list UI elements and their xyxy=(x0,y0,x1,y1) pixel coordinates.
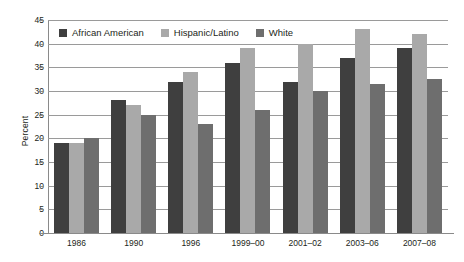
bar-group xyxy=(162,20,219,233)
x-axis-line xyxy=(40,233,454,234)
bar-group xyxy=(48,20,105,233)
bar xyxy=(427,79,442,233)
y-axis-tick-labels: 051015202530354045 xyxy=(14,20,44,233)
bar xyxy=(298,44,313,233)
y-tick-mark xyxy=(39,91,44,92)
bar xyxy=(313,91,328,233)
legend-swatch-icon xyxy=(59,29,67,37)
bar xyxy=(198,124,213,233)
bar xyxy=(69,143,84,233)
y-tick-mark xyxy=(39,115,44,116)
bar xyxy=(355,29,370,233)
bar xyxy=(240,48,255,233)
bar xyxy=(340,58,355,233)
bar xyxy=(370,84,385,233)
x-tick-label: 1999–00 xyxy=(231,238,264,248)
legend-item: Hispanic/Latino xyxy=(161,27,239,38)
legend-swatch-icon xyxy=(256,29,264,37)
legend-label: Hispanic/Latino xyxy=(174,27,239,38)
y-tick-mark xyxy=(39,162,44,163)
bar xyxy=(412,34,427,233)
x-tick-label: 2001–02 xyxy=(289,238,322,248)
y-tick-mark xyxy=(39,67,44,68)
bar-group xyxy=(219,20,276,233)
bar xyxy=(141,115,156,233)
bar xyxy=(168,82,183,233)
x-tick-label: 1996 xyxy=(181,238,200,248)
legend-swatch-icon xyxy=(161,29,169,37)
legend-label: African American xyxy=(72,27,144,38)
x-tick-label: 2007–08 xyxy=(403,238,436,248)
chart-legend: African AmericanHispanic/LatinoWhite xyxy=(58,26,296,39)
plot-area xyxy=(48,20,448,233)
y-tick-mark xyxy=(39,44,44,45)
bar xyxy=(397,48,412,233)
legend-label: White xyxy=(269,27,293,38)
y-tick-mark xyxy=(39,20,44,21)
x-tick-label: 2003–06 xyxy=(346,238,379,248)
legend-item: African American xyxy=(59,27,144,38)
y-tick-mark xyxy=(39,138,44,139)
bar xyxy=(255,110,270,233)
legend-item: White xyxy=(256,27,293,38)
bar xyxy=(225,63,240,233)
bar-group xyxy=(105,20,162,233)
x-tick-label: 1990 xyxy=(124,238,143,248)
bar-group xyxy=(391,20,448,233)
bar xyxy=(54,143,69,233)
bar-group xyxy=(334,20,391,233)
bar xyxy=(183,72,198,233)
bar-chart: Percent 051015202530354045 1986199019961… xyxy=(0,0,464,262)
y-tick-mark xyxy=(39,186,44,187)
bar-group xyxy=(277,20,334,233)
bar xyxy=(84,138,99,233)
bar xyxy=(283,82,298,233)
y-tick-mark xyxy=(39,209,44,210)
bar xyxy=(126,105,141,233)
bar xyxy=(111,100,126,233)
x-tick-label: 1986 xyxy=(67,238,86,248)
